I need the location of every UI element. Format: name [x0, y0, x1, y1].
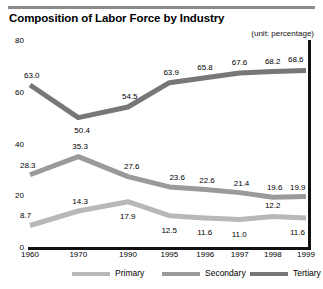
series-line-tertiary: [30, 70, 306, 117]
chart-figure: Composition of Labor Force by Industry (…: [0, 0, 323, 289]
x-tick-label: 1998: [258, 250, 288, 259]
data-point-label: 27.6: [124, 162, 140, 171]
legend-swatch-icon: [250, 272, 288, 276]
y-tick-label: 20: [6, 191, 24, 200]
y-tick-label: 60: [6, 88, 24, 97]
data-point-label: 11.6: [197, 228, 212, 237]
data-point-label: 12.2: [265, 201, 281, 210]
data-point-label: 68.2: [265, 57, 281, 66]
data-point-label: 17.9: [120, 212, 136, 221]
data-point-label: 54.5: [122, 92, 138, 101]
y-tick-label: 40: [6, 140, 24, 149]
legend-label: Secondary: [205, 268, 246, 278]
legend-swatch-icon: [72, 272, 110, 276]
x-tick-label: 1970: [63, 250, 93, 259]
data-point-label: 19.9: [290, 183, 306, 192]
data-point-label: 19.6: [267, 183, 283, 192]
data-point-label: 63.0: [24, 71, 40, 80]
data-point-label: 28.3: [20, 161, 36, 170]
data-point-label: 68.6: [288, 55, 304, 64]
chart-svg: [0, 0, 323, 289]
data-point-label: 12.5: [161, 226, 177, 235]
data-point-label: 63.9: [163, 68, 179, 77]
data-point-label: 67.6: [232, 58, 248, 67]
data-point-label: 14.3: [72, 197, 88, 206]
legend-label: Tertiary: [293, 268, 321, 278]
x-tick-label: 1995: [154, 250, 184, 259]
data-point-label: 11.0: [232, 230, 247, 239]
x-tick-label: 1997: [225, 250, 255, 259]
x-tick-label: 1996: [190, 250, 220, 259]
data-point-label: 65.8: [197, 63, 213, 72]
data-point-label: 35.3: [72, 142, 88, 151]
plot-area: [0, 0, 323, 289]
data-point-label: 8.7: [20, 211, 31, 220]
legend-swatch-icon: [162, 272, 200, 276]
x-tick-label: 1999: [291, 250, 321, 259]
data-point-label: 21.4: [234, 179, 250, 188]
series-line-secondary: [30, 157, 306, 198]
data-point-label: 23.6: [169, 173, 185, 182]
x-tick-label: 1990: [113, 250, 143, 259]
legend-label: Primary: [115, 268, 144, 278]
right-axis-line: [308, 40, 311, 250]
y-tick-label: 80: [6, 36, 24, 45]
data-point-label: 11.6: [290, 228, 305, 237]
data-point-label: 22.6: [199, 176, 215, 185]
x-tick-label: 1960: [15, 250, 45, 259]
chart-legend: PrimarySecondaryTertiary: [0, 268, 323, 282]
data-point-label: 50.4: [74, 126, 90, 135]
